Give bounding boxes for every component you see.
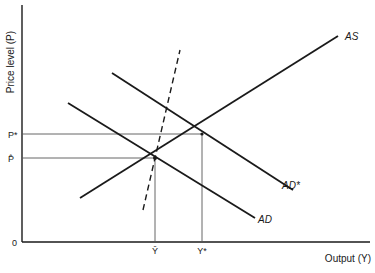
origin-label: 0: [12, 238, 17, 248]
equilibrium-initial: [153, 156, 157, 160]
y-star-label: Y*: [197, 246, 207, 256]
y-hat-label: Ŷ: [152, 246, 158, 256]
equilibrium-new: [200, 132, 203, 135]
ad-star-label: AD*: [281, 180, 301, 191]
x-axis-label: Output (Y): [325, 253, 371, 264]
ad-label: AD: [257, 214, 272, 225]
y-axis-label: Price level (P): [5, 31, 16, 93]
ad-star-curve: [112, 73, 293, 190]
as-label: AS: [344, 31, 359, 42]
p-hat-label: P̂: [8, 154, 14, 164]
as-ad-diagram: Price level (P) Output (Y) 0 P* P̂ Ŷ Y* …: [0, 0, 375, 273]
ad-curve: [68, 103, 255, 218]
p-star-label: P*: [8, 130, 18, 140]
dashed-curve: [143, 50, 180, 210]
as-curve: [80, 36, 338, 198]
